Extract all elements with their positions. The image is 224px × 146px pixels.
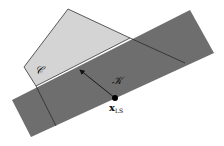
diagram-canvas: 𝒞 𝒦 xLS	[0, 0, 224, 146]
label-x-ls: xLS	[109, 102, 123, 114]
point-x-ls	[112, 95, 118, 101]
